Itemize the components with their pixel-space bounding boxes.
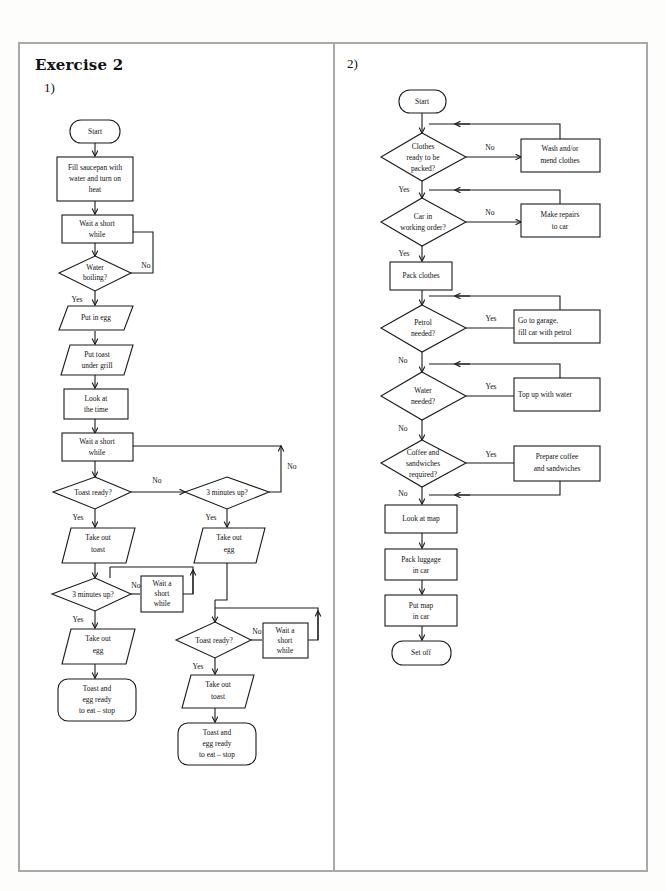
node-clothes-ready: Clothes ready to be packed? No Yes <box>381 133 495 194</box>
node-pack-clothes-label: Pack clothes <box>402 271 439 280</box>
node-repairs-line1: Make repairs <box>541 210 580 219</box>
node-car-working-order: Car in working order? No Yes <box>381 198 495 258</box>
node-garage-line2: fill car with petrol <box>518 328 572 337</box>
node-top-up-water: Top up with water <box>514 378 600 411</box>
node-water-line1: Water <box>414 386 432 395</box>
node-coffee-sandwiches: Coffee and sandwiches required? Yes No <box>381 440 497 498</box>
node-car-line1: Car in <box>414 212 433 221</box>
node-petrol-needed: Petrol needed? Yes No <box>381 305 497 365</box>
node-petrol-line2: needed? <box>411 329 435 338</box>
node-set-off: Set off <box>392 641 451 665</box>
node-repairs-line2: to car <box>552 222 569 231</box>
edge-label-2-yes-3: Yes <box>485 314 496 323</box>
node-coffee-line2: sandwiches <box>406 459 440 468</box>
node-garage-line1: Go to garage, <box>518 316 558 325</box>
node-look-at-map-label: Look at map <box>402 514 440 523</box>
node-pack-luggage: Pack luggage in car <box>385 549 457 580</box>
node-start-2: Start <box>399 90 446 113</box>
node-put-map-in-car: Put map in car <box>385 595 457 626</box>
node-look-at-map: Look at map <box>385 505 457 533</box>
edge-label-2-yes-2: Yes <box>398 249 409 258</box>
node-prepare-coffee: Prepare coffee and sandwiches <box>514 446 600 481</box>
node-put-map-line2: in car <box>413 612 430 621</box>
node-pack-clothes: Pack clothes <box>390 262 452 290</box>
node-wash-line1: Wash and/or <box>542 144 580 153</box>
node-go-to-garage: Go to garage, fill car with petrol <box>514 310 600 343</box>
flowchart-2: Start Clothes ready to be packed? No Yes… <box>0 0 666 891</box>
edge-label-2-yes-4: Yes <box>485 382 496 391</box>
node-top-up-label: Top up with water <box>518 390 572 399</box>
node-clothes-ready-line3: packed? <box>411 164 435 173</box>
node-clothes-ready-line1: Clothes <box>412 142 435 151</box>
node-coffee-line3: required? <box>409 470 437 479</box>
node-start-2-label: Start <box>415 97 430 106</box>
edge-label-2-yes-5: Yes <box>485 450 496 459</box>
node-wash-mend-clothes: Wash and/or mend clothes <box>521 139 600 172</box>
node-prepare-line2: and sandwiches <box>534 464 581 473</box>
node-prepare-line1: Prepare coffee <box>536 452 579 461</box>
node-set-off-label: Set off <box>411 648 431 657</box>
node-clothes-ready-line2: ready to be <box>407 153 441 162</box>
edge-label-2-no-1: No <box>485 143 494 152</box>
edge-label-2-yes-1: Yes <box>398 185 409 194</box>
edge-label-2-no-4: No <box>398 424 407 433</box>
node-car-line2: working order? <box>400 223 445 232</box>
node-put-map-line1: Put map <box>409 601 434 610</box>
node-wash-line2: mend clothes <box>540 156 579 165</box>
node-make-repairs: Make repairs to car <box>521 204 600 237</box>
edge-label-2-no-2: No <box>485 208 494 217</box>
node-coffee-line1: Coffee and <box>407 448 440 457</box>
node-water-line2: needed? <box>411 397 435 406</box>
node-petrol-line1: Petrol <box>414 318 432 327</box>
node-pack-luggage-line2: in car <box>413 566 430 575</box>
page-root: Exercise 2 1) 2) <box>0 0 666 891</box>
edge-label-2-no-3: No <box>398 356 407 365</box>
node-pack-luggage-line1: Pack luggage <box>401 555 441 564</box>
node-water-needed: Water needed? Yes No <box>381 372 497 433</box>
edge-label-2-no-5: No <box>398 489 407 498</box>
